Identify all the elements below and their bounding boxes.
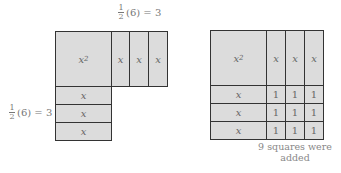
- x-strip: x: [148, 31, 168, 87]
- x-strip: x: [266, 30, 286, 86]
- unit-square: 1: [304, 121, 324, 140]
- x-strip: x: [285, 30, 305, 86]
- x-strip: x: [304, 30, 324, 86]
- x-strip: x: [55, 104, 112, 123]
- x-strip: x: [210, 85, 267, 104]
- x-strip: x: [55, 122, 112, 141]
- top-half-label: 12 (6) = 3: [118, 4, 161, 21]
- unit-square: 1: [285, 103, 305, 122]
- x-strip: x: [210, 121, 267, 140]
- x-strip: x: [111, 31, 130, 87]
- unit-square: 1: [304, 85, 324, 104]
- x-strip: x: [129, 31, 149, 87]
- x-strip: x: [210, 103, 267, 122]
- caption: 9 squares were added: [255, 141, 335, 163]
- unit-square: 1: [266, 103, 286, 122]
- side-half-label: 12 (6) = 3: [9, 104, 52, 121]
- unit-square: 1: [266, 85, 286, 104]
- x-squared-square: x2: [210, 30, 267, 86]
- unit-square: 1: [304, 103, 324, 122]
- x-strip: x: [55, 86, 112, 105]
- x-squared-square: x2: [55, 31, 112, 87]
- unit-square: 1: [266, 121, 286, 140]
- unit-square: 1: [285, 121, 305, 140]
- unit-square: 1: [285, 85, 305, 104]
